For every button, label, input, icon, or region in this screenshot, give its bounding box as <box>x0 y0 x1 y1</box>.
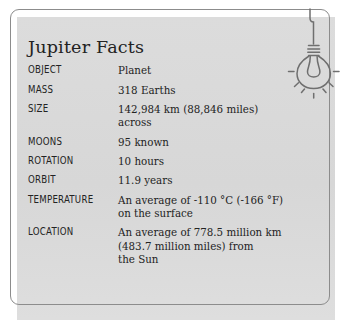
fact-label: MASS <box>28 84 118 103</box>
fact-value-line: (483.7 million miles) from <box>118 240 286 253</box>
fact-value-line: the Sun <box>118 253 286 266</box>
fact-value-line: 95 known <box>118 136 286 149</box>
fact-value: 95 known <box>118 136 286 155</box>
fact-row: MOONS95 known <box>28 136 286 155</box>
fact-label: LOCATION <box>28 226 118 272</box>
fact-value-line: 318 Earths <box>118 84 286 97</box>
fact-value-line: An average of -110 °C (-166 °F) <box>118 194 286 207</box>
fact-value: Planet <box>118 64 286 83</box>
fact-row: MASS318 Earths <box>28 84 286 103</box>
card-title: Jupiter Facts <box>28 38 286 57</box>
fact-value: An average of 778.5 million km(483.7 mil… <box>118 226 286 272</box>
fact-value-line: 11.9 years <box>118 174 286 187</box>
fact-label: ORBIT <box>28 174 118 193</box>
fact-row: ORBIT11.9 years <box>28 174 286 193</box>
fact-value-line: on the surface <box>118 207 286 220</box>
fact-row: SIZE142,984 km (88,846 miles) across <box>28 103 286 136</box>
facts-table: OBJECTPlanetMASS318 EarthsSIZE142,984 km… <box>28 64 286 272</box>
fact-label: TEMPERATURE <box>28 194 118 227</box>
fact-label: OBJECT <box>28 64 118 83</box>
card-content: Jupiter Facts OBJECTPlanetMASS318 Earths… <box>28 38 286 272</box>
fact-label: ROTATION <box>28 155 118 174</box>
fact-value: 10 hours <box>118 155 286 174</box>
fact-value-line: An average of 778.5 million km <box>118 226 286 239</box>
fact-value: 142,984 km (88,846 miles) across <box>118 103 286 136</box>
fact-value-line: Planet <box>118 64 286 77</box>
fact-card-screenshot: Jupiter Facts OBJECTPlanetMASS318 Earths… <box>0 0 352 329</box>
fact-row: ROTATION10 hours <box>28 155 286 174</box>
fact-row: LOCATIONAn average of 778.5 million km(4… <box>28 226 286 272</box>
fact-row: TEMPERATUREAn average of -110 °C (-166 °… <box>28 194 286 227</box>
fact-value: 318 Earths <box>118 84 286 103</box>
fact-value-line: 142,984 km (88,846 miles) across <box>118 103 286 129</box>
fact-row: OBJECTPlanet <box>28 64 286 83</box>
fact-value: 11.9 years <box>118 174 286 193</box>
fact-value-line: 10 hours <box>118 155 286 168</box>
fact-label: SIZE <box>28 103 118 136</box>
fact-label: MOONS <box>28 136 118 155</box>
fact-value: An average of -110 °C (-166 °F)on the su… <box>118 194 286 227</box>
